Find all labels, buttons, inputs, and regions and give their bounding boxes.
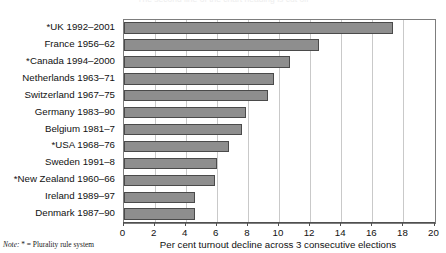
value-axis-tick [278,222,279,226]
category-label: Switzerland 1967–75 [25,87,115,104]
bar [124,158,217,169]
category-label: Germany 1983–90 [35,104,115,121]
bar-row [124,20,435,37]
value-axis-tick-label: 4 [170,227,200,238]
category-axis-labels: *UK 1992–2001France 1956–62*Canada 1994–… [0,19,119,222]
value-axis-title: Per cent turnout decline across 3 consec… [123,239,434,250]
category-label: Belgium 1981–7 [45,121,115,138]
value-axis-tick [154,222,155,226]
category-label: Denmark 1987–90 [35,205,115,222]
bar-chart-figure: The second line of the chart heading is … [0,0,446,253]
value-axis-tick-label: 18 [387,227,417,238]
plot-area [123,19,436,224]
clipped-chart-title: The second line of the chart heading is … [0,0,446,4]
bar [124,107,247,118]
bar-row [124,172,435,189]
bar [124,90,269,101]
value-axis-tick-label: 2 [139,227,169,238]
value-axis-tick [216,222,217,226]
value-axis-tick [309,222,310,226]
category-label: *New Zealand 1960–66 [14,171,115,188]
bar [124,192,196,203]
bar-row [124,88,435,105]
value-axis-tick-label: 0 [108,227,138,238]
value-axis-tick [340,222,341,226]
bar-row [124,37,435,54]
value-axis-tick-label: 20 [419,227,446,238]
bar-row [124,54,435,71]
footnote-text: * = Plurality rule system [19,240,94,249]
bar [124,56,290,67]
bar-row [124,138,435,155]
footnote: Note: * = Plurality rule system [3,240,94,249]
value-axis-tick-label: 6 [201,227,231,238]
bar-row [124,206,435,223]
value-axis-tick [247,222,248,226]
value-axis-tick [371,222,372,226]
value-axis-tick [185,222,186,226]
category-label: Sweden 1991–8 [45,154,115,171]
bar-series [124,20,435,223]
category-label: France 1956–62 [44,36,115,53]
value-axis-tick [123,222,124,226]
bar-row [124,122,435,139]
bar [124,124,242,135]
category-label: Netherlands 1963–71 [22,70,115,87]
value-axis-tick-label: 16 [356,227,386,238]
bar [124,22,393,33]
bar [124,141,230,152]
footnote-label: Note: [3,240,19,249]
bar-row [124,71,435,88]
category-label: Ireland 1989–97 [45,188,115,205]
value-axis-tick-label: 14 [325,227,355,238]
bar [124,73,275,84]
bar [124,175,216,186]
bar [124,208,196,219]
value-axis-tick-label: 8 [232,227,262,238]
bar [124,39,320,50]
category-label: *Canada 1994–2000 [26,53,115,70]
category-label: *USA 1968–76 [51,137,115,154]
bar-row [124,189,435,206]
value-axis: 02468101214161820 [123,222,434,223]
value-axis-tick-label: 10 [263,227,293,238]
category-label: *UK 1992–2001 [47,19,115,36]
value-axis-tick [402,222,403,226]
value-axis-tick [434,222,435,226]
value-axis-tick-label: 12 [294,227,324,238]
bar-row [124,105,435,122]
bar-row [124,155,435,172]
